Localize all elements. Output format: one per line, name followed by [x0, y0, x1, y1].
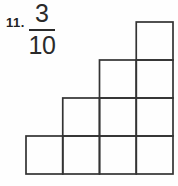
- grid-square: [136, 60, 173, 98]
- grid-square: [26, 136, 63, 174]
- grid-square: [136, 98, 173, 136]
- grid-square: [63, 98, 100, 136]
- grid-square: [100, 136, 137, 174]
- grid-square: [100, 60, 137, 98]
- staircase-figure: [0, 0, 178, 186]
- grid-square: [63, 136, 100, 174]
- grid-square: [136, 22, 173, 60]
- worksheet-page: 11. 3 10: [0, 0, 178, 186]
- grid-square: [136, 136, 173, 174]
- grid-square: [100, 98, 137, 136]
